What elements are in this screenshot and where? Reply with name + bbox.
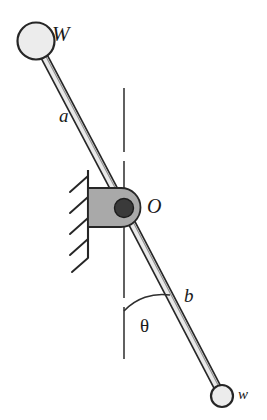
angle-arc-theta [124,294,170,311]
hatch-mark [70,218,88,234]
pivot-pin [115,199,134,218]
hatch-mark [72,258,88,272]
label-weight-w: w [238,387,248,402]
label-weight-W: W [52,24,70,45]
label-arm-a: a [59,106,69,125]
weight-W-ball [18,23,55,60]
hatch-mark [70,239,88,255]
wall-support [70,170,88,272]
lower-rod-b [124,207,223,396]
label-angle-theta: θ [140,316,149,335]
label-pivot-O: O [147,196,161,216]
weight-w-ball [211,385,233,407]
mechanics-figure: W a O b θ w [0,0,267,420]
hatch-mark [70,176,88,192]
hatch-mark [70,197,88,213]
label-arm-b: b [184,286,194,305]
figure-canvas [0,0,267,420]
